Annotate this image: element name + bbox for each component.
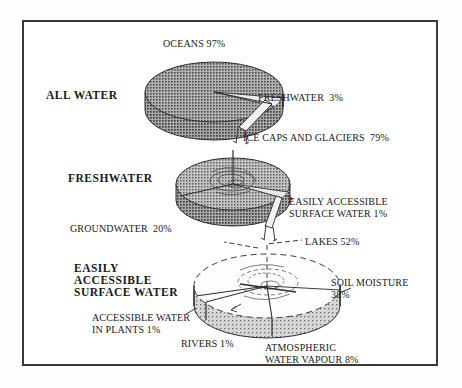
label-all-water-heading: ALL WATER xyxy=(46,89,118,102)
label-atmospheric-water-vapour: ATMOSPHERIC WATER VAPOUR 8% xyxy=(265,342,359,366)
label-soil-moisture: SOIL MOISTURE 38% xyxy=(331,277,408,301)
label-oceans: OCEANS 97% xyxy=(163,38,225,50)
water-distribution-figure: OCEANS 97% ALL WATER FRESHWATER 3% ICE C… xyxy=(0,0,462,388)
label-ice-caps-and-glaciers: ICE CAPS AND GLACIERS 79% xyxy=(243,132,389,144)
pie-chart-illustration xyxy=(0,0,462,388)
label-freshwater-heading: FRESHWATER xyxy=(68,172,153,185)
pie-freshwater xyxy=(176,150,292,241)
label-lakes: LAKES 52% xyxy=(305,236,359,248)
label-rivers: RIVERS 1% xyxy=(181,338,234,350)
pie-easily-accessible-surface-water xyxy=(186,240,351,338)
label-easily-accessible-surface-water-percent: EASILY ACCESSIBLE SURFACE WATER 1% xyxy=(289,196,388,220)
label-accessible-water-in-plants: ACCESSIBLE WATER IN PLANTS 1% xyxy=(92,312,190,336)
label-groundwater: GROUNDWATER 20% xyxy=(70,223,172,235)
label-easily-accessible-surface-water-heading: EASILY ACCESSIBLE SURFACE WATER xyxy=(74,262,178,298)
label-freshwater-percent: FRESHWATER 3% xyxy=(258,92,343,104)
